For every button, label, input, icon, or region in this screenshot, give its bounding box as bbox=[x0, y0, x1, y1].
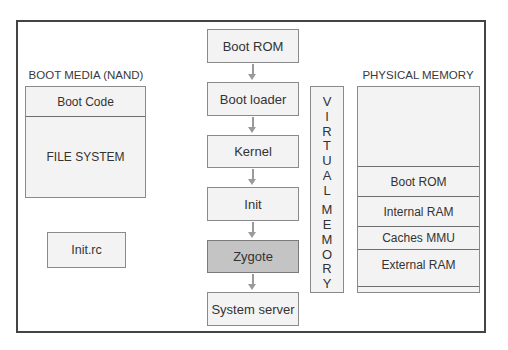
physical-memory-map: Boot ROM Internal RAM Caches MMU Externa… bbox=[357, 86, 480, 293]
vm-letter: L bbox=[323, 184, 330, 199]
step-system-server: System server bbox=[207, 292, 299, 326]
file-system-section: FILE SYSTEM bbox=[26, 116, 145, 197]
vm-letter: I bbox=[325, 110, 329, 125]
vm-letter: O bbox=[322, 248, 332, 263]
vm-letter: R bbox=[322, 125, 331, 140]
virtual-memory-bar: V I R T U A L M E M O R Y bbox=[310, 86, 344, 293]
vm-letter: M bbox=[322, 203, 333, 218]
step-boot-rom: Boot ROM bbox=[207, 29, 299, 63]
vm-letter: E bbox=[323, 218, 332, 233]
step-init: Init bbox=[207, 187, 299, 221]
arrow-down-icon bbox=[248, 117, 257, 134]
physical-memory-title: PHYSICAL MEMORY bbox=[356, 69, 480, 81]
boot-media-title: BOOT MEDIA (NAND) bbox=[22, 69, 150, 81]
region-boot-rom: Boot ROM bbox=[358, 166, 479, 196]
unused-region bbox=[358, 87, 479, 166]
region-caches-mmu: Caches MMU bbox=[358, 226, 479, 249]
arrow-down-icon bbox=[248, 64, 257, 81]
region-tail bbox=[358, 286, 479, 292]
vm-letter: R bbox=[322, 262, 331, 277]
step-zygote: Zygote bbox=[207, 240, 299, 273]
region-internal-ram: Internal RAM bbox=[358, 196, 479, 226]
step-boot-loader: Boot loader bbox=[207, 82, 299, 116]
vm-letter: M bbox=[322, 233, 333, 248]
arrow-down-icon bbox=[248, 274, 257, 291]
step-kernel: Kernel bbox=[207, 135, 299, 168]
boot-code-section: Boot Code bbox=[26, 87, 145, 116]
vm-letter: T bbox=[323, 139, 331, 154]
init-rc-box: Init.rc bbox=[47, 232, 126, 268]
vm-letter: A bbox=[323, 169, 332, 184]
boot-media-nand: Boot Code FILE SYSTEM bbox=[25, 86, 146, 198]
arrow-down-icon bbox=[248, 222, 257, 239]
vm-letter: Y bbox=[323, 277, 332, 292]
region-external-ram: External RAM bbox=[358, 249, 479, 286]
vm-letter: U bbox=[322, 154, 331, 169]
vm-letter: V bbox=[323, 95, 332, 110]
arrow-down-icon bbox=[248, 169, 257, 186]
